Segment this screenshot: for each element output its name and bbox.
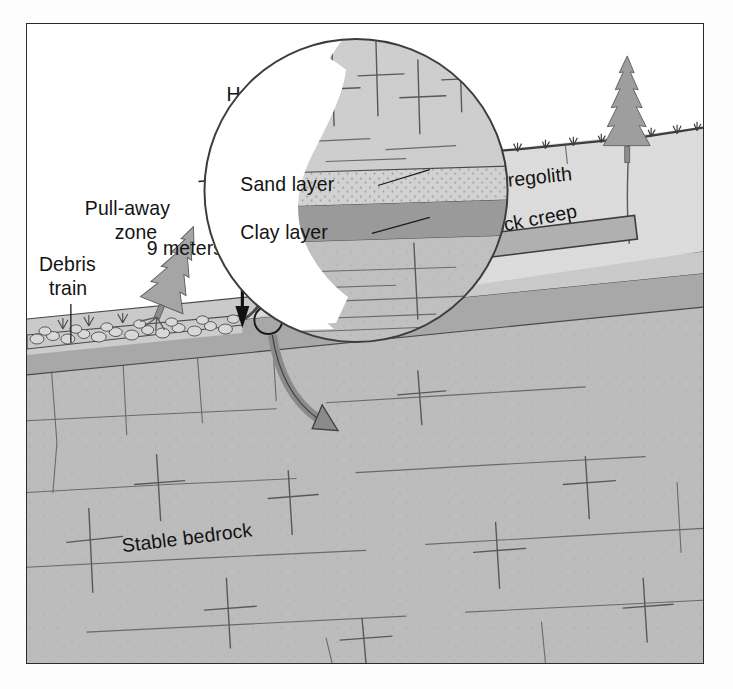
pull-away-zone-label-line2: zone	[115, 221, 158, 243]
pull-away-zone-label-line1: Pull-away	[85, 197, 170, 219]
figure-stage: 9 meters Headwall scarp Pull-away zone D…	[0, 0, 733, 689]
figure-frame: 9 meters Headwall scarp Pull-away zone D…	[26, 23, 704, 664]
scale-measure-label: 9 meters	[147, 237, 224, 259]
cross-section-diagram: 9 meters Headwall scarp Pull-away zone D…	[27, 24, 703, 663]
clay-layer-label: Clay layer	[240, 221, 328, 243]
debris-train-label-line2: train	[49, 277, 87, 299]
debris-train-label-line1: Debris	[39, 253, 96, 275]
sand-layer-label: Sand layer	[240, 173, 334, 195]
